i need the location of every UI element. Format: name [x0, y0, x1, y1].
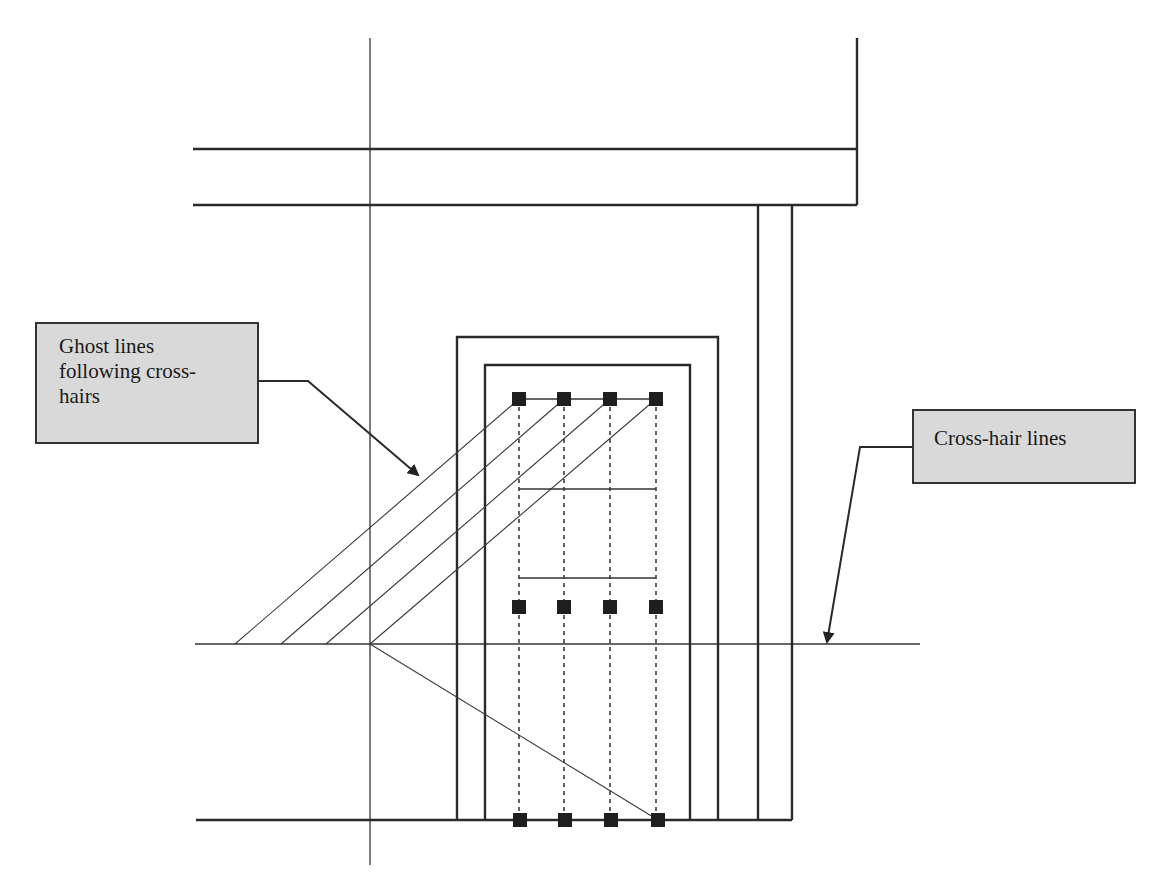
node-square	[604, 813, 618, 827]
top-beam	[193, 38, 857, 205]
node-square	[557, 600, 571, 614]
node-square	[512, 600, 526, 614]
node-square	[603, 392, 617, 406]
node-square	[649, 600, 663, 614]
ghost-lines	[235, 399, 658, 820]
ghost-callout-arrow	[259, 381, 418, 475]
ghost-line-diagonal-down	[370, 644, 658, 820]
node-square	[558, 813, 572, 827]
node-square	[557, 392, 571, 406]
crosshair-lines	[195, 38, 920, 865]
callout-text-line: Cross-hair lines	[934, 426, 1124, 451]
ghost-lines-callout: Ghost lines following cross- hairs	[35, 322, 259, 444]
callout-text-line: following cross-	[59, 359, 245, 384]
callout-text-line: Ghost lines	[59, 334, 245, 359]
crosshair-lines-callout: Cross-hair lines	[912, 409, 1136, 484]
node-square	[651, 813, 665, 827]
node-square	[649, 392, 663, 406]
callout-text-line: hairs	[59, 384, 245, 409]
crosshair-callout-arrow	[827, 447, 912, 642]
inner-frame	[485, 365, 690, 820]
node-square	[603, 600, 617, 614]
node-square	[512, 392, 526, 406]
connector-bars	[519, 399, 656, 578]
node-square	[513, 813, 527, 827]
nodes-middle-row	[512, 600, 663, 614]
support-columns	[758, 205, 792, 820]
dashed-guides	[519, 399, 656, 820]
ghost-line-1	[235, 399, 519, 644]
